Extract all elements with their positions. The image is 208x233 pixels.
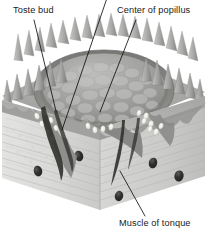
label-taste-bud: Toste bud <box>13 6 54 15</box>
papilla-diagram: Toste bud Center of popillus Muscle of t… <box>0 0 208 233</box>
label-muscle-of-tongue: Muscle of tonque <box>119 219 191 228</box>
label-center-of-papilla: Center of popillus <box>117 6 190 15</box>
papilla-illustration <box>0 0 208 233</box>
